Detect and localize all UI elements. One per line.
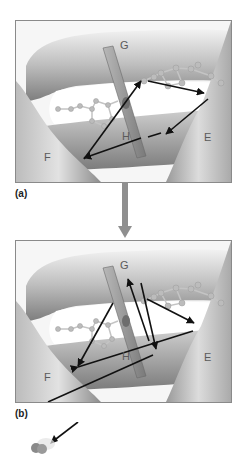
panel-label-b: (b) [15, 408, 28, 419]
released-ligand-icon [28, 422, 88, 458]
helix-label-e: E [204, 351, 211, 363]
helix-label-h: H [122, 350, 130, 362]
panel-label-a: (a) [15, 188, 27, 199]
helix-label-g: G [120, 39, 129, 51]
slab-center [122, 315, 130, 327]
panel-b: G H F E [15, 240, 232, 403]
panel-a: G H F E [15, 20, 232, 183]
helix-label-g: G [120, 259, 129, 271]
helix-label-f: F [44, 151, 51, 163]
transition-arrow-icon [118, 182, 132, 240]
helix-label-h: H [122, 130, 130, 142]
helix-label-f: F [44, 371, 51, 383]
helix-label-e: E [204, 131, 211, 143]
